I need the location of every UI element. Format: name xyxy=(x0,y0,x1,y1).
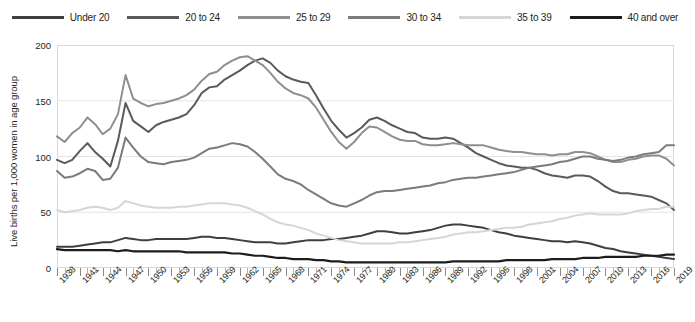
x-axis-tick-label: 1941 xyxy=(80,264,101,285)
x-axis-tick-label: 1959 xyxy=(217,264,238,285)
x-axis-tick-label: 1989 xyxy=(445,264,466,285)
series-line-40-and-over xyxy=(57,249,674,262)
x-axis-tick-mark xyxy=(354,268,355,276)
series-line-20-to-24 xyxy=(57,58,674,210)
x-axis-tick-mark xyxy=(369,268,370,273)
legend-swatch-icon xyxy=(570,16,622,19)
x-axis-tick-mark xyxy=(286,268,287,276)
legend-item-25-to-29[interactable]: 25 to 29 xyxy=(238,12,331,23)
x-axis-tick-mark xyxy=(423,268,424,276)
x-axis-tick-mark xyxy=(331,268,332,276)
series-line-30-to-34 xyxy=(57,138,674,207)
x-axis-tick-label: 1980 xyxy=(377,264,398,285)
legend-label: Under 20 xyxy=(70,12,110,23)
legend-item-35-to-39[interactable]: 35 to 39 xyxy=(459,12,552,23)
legend-swatch-icon xyxy=(459,16,511,19)
x-axis-tick-mark xyxy=(57,268,58,276)
x-axis-tick-label: 1962 xyxy=(240,264,261,285)
x-axis-tick-mark xyxy=(453,268,454,273)
x-axis-tick-label: 2016 xyxy=(651,264,672,285)
x-axis-tick-mark xyxy=(126,268,127,276)
y-axis-tick-label: 50 xyxy=(40,207,51,218)
x-axis-tick-mark xyxy=(537,268,538,276)
x-axis-tick-mark xyxy=(506,268,507,273)
legend-swatch-icon xyxy=(127,16,179,19)
chart-legend: Under 2020 to 2425 to 2930 to 3435 to 39… xyxy=(0,12,690,23)
x-axis-tick-mark xyxy=(87,268,88,273)
x-axis-tick-label: 1965 xyxy=(263,264,284,285)
x-axis-tick-mark xyxy=(659,268,660,273)
x-axis-tick-label: 1938 xyxy=(57,264,78,285)
x-axis-tick-mark xyxy=(415,268,416,273)
x-axis-tick-mark xyxy=(270,268,271,273)
x-axis-tick-mark xyxy=(514,268,515,276)
x-axis-tick-mark xyxy=(392,268,393,273)
legend-label: 40 and over xyxy=(628,12,679,23)
x-axis-tick-mark xyxy=(301,268,302,273)
legend-item-20-to-24[interactable]: 20 to 24 xyxy=(127,12,220,23)
x-axis-tick-mark xyxy=(644,268,645,273)
x-axis-tick-label: 2013 xyxy=(628,264,649,285)
x-axis-tick-mark xyxy=(141,268,142,273)
y-axis-title: Live births per 1,000 women in age group xyxy=(8,57,19,267)
legend-label: 30 to 34 xyxy=(406,12,441,23)
x-axis-tick-label: 2007 xyxy=(583,264,604,285)
x-axis-tick-mark xyxy=(278,268,279,273)
x-axis-tick-mark xyxy=(263,268,264,276)
x-axis-tick-mark xyxy=(179,268,180,273)
x-axis-tick-mark xyxy=(522,268,523,273)
x-axis: 1938194119441947195019531956195919621965… xyxy=(57,268,674,322)
x-axis-tick-mark xyxy=(255,268,256,273)
y-axis-tick-label: 150 xyxy=(35,95,51,106)
x-axis-tick-mark xyxy=(156,268,157,273)
x-axis-tick-mark xyxy=(308,268,309,276)
x-axis-tick-mark xyxy=(110,268,111,273)
x-axis-tick-mark xyxy=(560,268,561,276)
x-axis-tick-mark xyxy=(118,268,119,273)
x-axis-tick-label: 1977 xyxy=(354,264,375,285)
x-axis-tick-label: 1992 xyxy=(468,264,489,285)
legend-label: 35 to 39 xyxy=(517,12,552,23)
x-axis-tick-mark xyxy=(293,268,294,273)
x-axis-tick-label: 2001 xyxy=(537,264,558,285)
legend-swatch-icon xyxy=(238,16,290,19)
x-axis-tick-label: 1998 xyxy=(514,264,535,285)
x-axis-tick-mark xyxy=(95,268,96,273)
x-axis-tick-mark xyxy=(232,268,233,273)
legend-item-under-20[interactable]: Under 20 xyxy=(12,12,110,23)
x-axis-tick-mark xyxy=(545,268,546,273)
x-axis-tick-mark xyxy=(80,268,81,276)
x-axis-tick-label: 1971 xyxy=(308,264,329,285)
x-axis-tick-label: 1983 xyxy=(400,264,421,285)
x-axis-tick-label: 1944 xyxy=(103,264,124,285)
x-axis-tick-label: 1953 xyxy=(171,264,192,285)
legend-item-30-to-34[interactable]: 30 to 34 xyxy=(348,12,441,23)
x-axis-tick-mark xyxy=(164,268,165,273)
x-axis-tick-mark xyxy=(651,268,652,276)
legend-label: 25 to 29 xyxy=(296,12,331,23)
x-axis-tick-label: 1986 xyxy=(423,264,444,285)
x-axis-tick-mark xyxy=(575,268,576,273)
y-axis-tick-label: 100 xyxy=(35,151,51,162)
legend-item-40-and-over[interactable]: 40 and over xyxy=(570,12,679,23)
series-line-35-to-39 xyxy=(57,201,674,243)
x-axis-tick-label: 1950 xyxy=(148,264,169,285)
x-axis-tick-label: 2010 xyxy=(605,264,626,285)
y-axis-tick-label: 0 xyxy=(46,263,51,274)
x-axis-tick-label: 1956 xyxy=(194,264,215,285)
x-axis-tick-mark xyxy=(217,268,218,276)
x-axis-tick-mark xyxy=(430,268,431,273)
x-axis-tick-mark xyxy=(133,268,134,273)
legend-label: 20 to 24 xyxy=(185,12,220,23)
x-axis-tick-mark xyxy=(674,268,675,276)
x-axis-tick-label: 1995 xyxy=(491,264,512,285)
legend-swatch-icon xyxy=(348,16,400,19)
x-axis-tick-label: 1968 xyxy=(286,264,307,285)
x-axis-tick-mark xyxy=(613,268,614,273)
x-axis-tick-mark xyxy=(247,268,248,273)
plot-area xyxy=(57,45,674,268)
x-axis-tick-mark xyxy=(407,268,408,273)
x-axis-tick-mark xyxy=(621,268,622,273)
x-axis-tick-mark xyxy=(186,268,187,273)
